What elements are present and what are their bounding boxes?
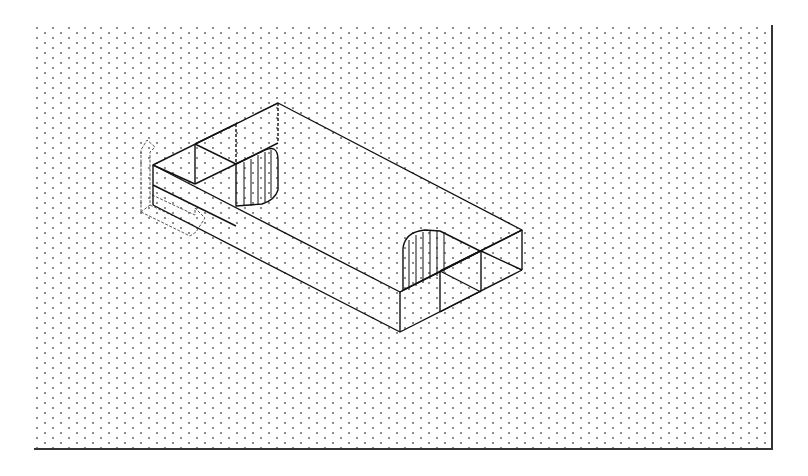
drawing-canvas[interactable]	[0, 0, 808, 476]
dot-grid	[35, 25, 772, 449]
cad-drawing-viewport[interactable]	[0, 0, 808, 476]
